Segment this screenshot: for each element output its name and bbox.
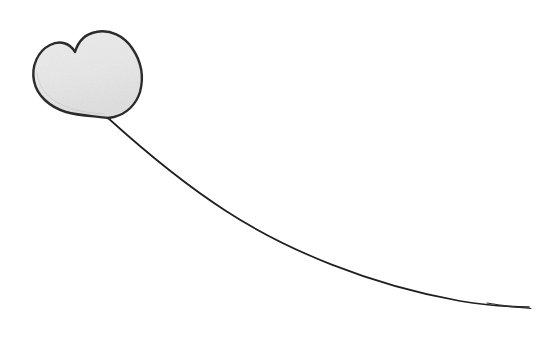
heart-balloon-illustration [0,0,541,357]
image-canvas: Heart balloon Simple line drawing of a h… [0,0,541,357]
heart-balloon [33,31,141,118]
